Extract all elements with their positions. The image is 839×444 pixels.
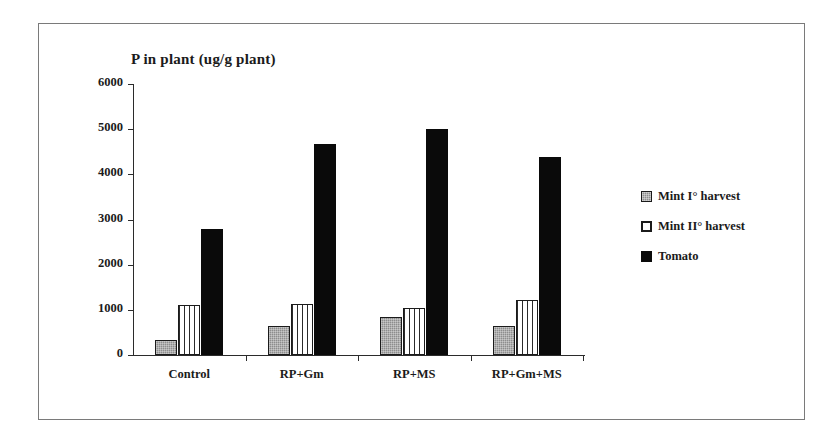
x-tick-label: RP+Gm+MS: [492, 367, 562, 382]
y-tick: 2000: [128, 265, 134, 266]
legend-swatch-icon: [641, 191, 652, 202]
y-tick-label: 4000: [98, 165, 123, 180]
y-tick: 0: [128, 355, 134, 356]
y-tick-label: 3000: [98, 211, 123, 226]
x-tick: [471, 355, 472, 361]
legend-item: Mint I° harvest: [641, 181, 745, 211]
bar: [426, 129, 448, 355]
x-tick: [246, 355, 247, 361]
bar: [516, 300, 538, 355]
bar: [539, 157, 561, 355]
bar: [493, 326, 515, 355]
x-tick-label: RP+MS: [393, 367, 436, 382]
y-tick-label: 5000: [98, 120, 123, 135]
y-tick: 5000: [128, 129, 134, 130]
x-tick-label: RP+Gm: [280, 367, 324, 382]
y-tick-label: 1000: [98, 301, 123, 316]
figure-frame: P in plant (ug/g plant) 0100020003000400…: [38, 23, 805, 420]
bar: [155, 340, 177, 355]
x-tick: [358, 355, 359, 361]
chart-title: P in plant (ug/g plant): [131, 51, 276, 68]
y-tick: 1000: [128, 310, 134, 311]
plot-area: 0100020003000400050006000 ControlRP+GmRP…: [133, 84, 583, 355]
x-axis-line: [133, 355, 585, 356]
legend-label: Tomato: [658, 249, 699, 264]
legend-swatch-icon: [641, 221, 652, 232]
bar: [403, 308, 425, 355]
legend-item: Tomato: [641, 241, 745, 271]
x-tick-label: Control: [169, 367, 210, 382]
bar: [380, 317, 402, 355]
y-tick-label: 6000: [98, 75, 123, 90]
chart-legend: Mint I° harvestMint II° harvestTomato: [641, 181, 745, 271]
bar: [314, 144, 336, 355]
bar: [178, 305, 200, 355]
y-tick: 6000: [128, 84, 134, 85]
y-tick: 3000: [128, 220, 134, 221]
legend-label: Mint I° harvest: [658, 189, 740, 204]
bar: [291, 304, 313, 355]
y-tick: 4000: [128, 174, 134, 175]
legend-label: Mint II° harvest: [658, 219, 745, 234]
bar: [201, 229, 223, 355]
y-tick-label: 0: [117, 346, 123, 361]
legend-item: Mint II° harvest: [641, 211, 745, 241]
x-tick: [583, 355, 584, 361]
bar: [268, 326, 290, 355]
legend-swatch-icon: [641, 251, 652, 262]
y-tick-label: 2000: [98, 256, 123, 271]
